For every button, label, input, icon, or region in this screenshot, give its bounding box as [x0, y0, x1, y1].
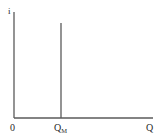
x-axis-label: Q — [146, 122, 154, 133]
y-axis-label: i — [8, 6, 11, 16]
origin-label: 0 — [10, 122, 15, 133]
qm-label-subscript: M — [61, 127, 67, 134]
diagram-canvas: i 0 QM Q — [0, 0, 161, 139]
money-supply-diagram: i 0 QM Q — [0, 0, 161, 139]
qm-label: QM — [54, 122, 67, 134]
